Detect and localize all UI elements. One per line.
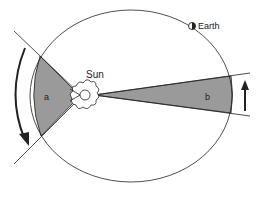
earth-label: Earth (198, 21, 220, 31)
motion-arrow-a-icon (16, 48, 30, 146)
earth-icon (189, 23, 196, 30)
sun-icon (70, 80, 99, 109)
sector-b-label: b (205, 92, 210, 102)
sector-a-label: a (44, 92, 49, 102)
kepler-diagram: Sun Earth a b (0, 0, 266, 199)
sun-label: Sun (86, 69, 104, 80)
sector-b (94, 76, 233, 113)
motion-arrow-b-icon (241, 80, 249, 111)
